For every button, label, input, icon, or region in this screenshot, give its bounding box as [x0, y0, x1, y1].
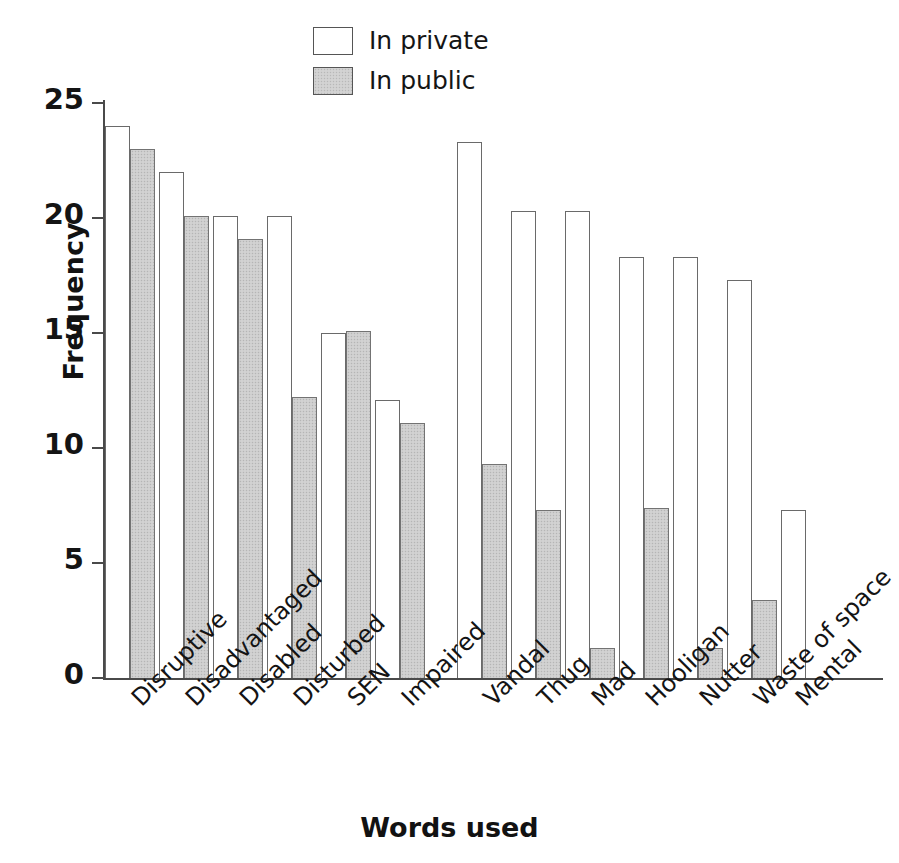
frequency-bar-chart: In private In public 2520151050 Frequenc…	[0, 0, 899, 863]
x-axis-title: Words used	[0, 812, 899, 843]
bar-disadvantaged-in-private	[159, 172, 184, 678]
bar-disadvantaged-in-public	[184, 216, 209, 678]
bar-impaired-in-public	[400, 423, 425, 678]
bar-nutter-in-private	[673, 257, 698, 678]
bar-thug-in-private	[511, 211, 536, 678]
bar-disruptive-in-private	[105, 126, 130, 678]
bar-hooligan-in-public	[644, 508, 669, 678]
bar-vandal-in-private	[457, 142, 482, 678]
bar-waste-of-space-in-private	[727, 280, 752, 678]
bar-mad-in-private	[565, 211, 590, 678]
bar-hooligan-in-private	[619, 257, 644, 678]
bar-disruptive-in-public	[130, 149, 155, 678]
bar-vandal-in-public	[482, 464, 507, 678]
bar-sen-in-private	[321, 333, 346, 678]
bars-layer	[0, 0, 899, 863]
